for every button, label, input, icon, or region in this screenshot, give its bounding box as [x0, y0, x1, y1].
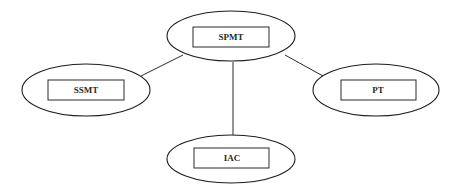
- node-spmt-label: SPMT: [218, 32, 243, 42]
- edge-spmt-ssmt: [141, 55, 183, 76]
- node-ssmt-label: SSMT: [74, 85, 99, 95]
- node-iac: IAC: [167, 135, 295, 183]
- diagram-canvas: SPMT SSMT PT IAC: [0, 0, 460, 196]
- node-pt-label: PT: [372, 85, 384, 95]
- edges: [141, 55, 323, 135]
- edge-spmt-pt: [285, 55, 323, 76]
- node-spmt: SPMT: [167, 11, 295, 61]
- node-pt: PT: [313, 64, 439, 116]
- node-iac-label: IAC: [224, 153, 241, 163]
- node-ssmt: SSMT: [22, 64, 150, 116]
